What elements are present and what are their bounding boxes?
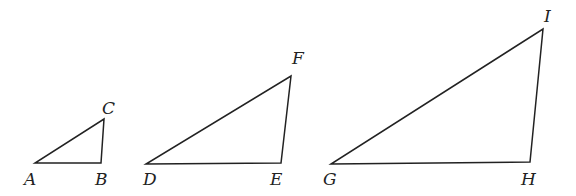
triangle-abc: A B C bbox=[22, 98, 115, 189]
vertex-label-a: A bbox=[22, 169, 36, 189]
vertex-label-e: E bbox=[269, 169, 283, 189]
diagram-svg: A B C D E F G H I bbox=[0, 0, 576, 196]
vertex-label-h: H bbox=[520, 169, 537, 189]
triangle-ghi-shape bbox=[331, 29, 543, 164]
triangle-ghi: G H I bbox=[323, 6, 551, 189]
vertex-label-d: D bbox=[142, 169, 157, 189]
triangle-def-shape bbox=[146, 76, 291, 164]
vertex-label-g: G bbox=[323, 169, 337, 189]
vertex-label-b: B bbox=[94, 169, 108, 189]
vertex-label-i: I bbox=[543, 6, 551, 26]
triangle-def: D E F bbox=[142, 48, 305, 189]
vertex-label-c: C bbox=[102, 98, 115, 118]
triangle-abc-shape bbox=[35, 119, 104, 163]
similar-triangles-diagram: A B C D E F G H I bbox=[0, 0, 576, 196]
vertex-label-f: F bbox=[291, 48, 305, 68]
